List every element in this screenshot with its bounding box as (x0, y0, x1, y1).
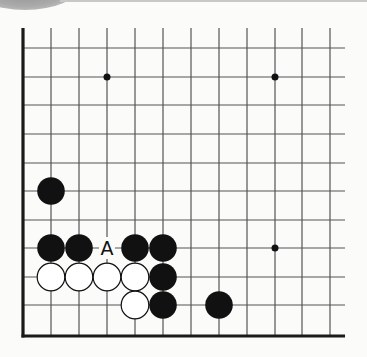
point-label: A (101, 237, 114, 259)
black-stone[interactable] (149, 234, 177, 262)
black-stone[interactable] (65, 234, 93, 262)
black-stone[interactable] (149, 263, 177, 291)
black-stone[interactable] (149, 291, 177, 319)
black-stone[interactable] (37, 177, 65, 205)
labels: A (99, 237, 115, 259)
black-stone[interactable] (121, 234, 149, 262)
grid-lines (23, 28, 345, 336)
black-stone[interactable] (37, 234, 65, 262)
star-point (272, 74, 279, 81)
white-stone[interactable] (93, 263, 121, 291)
board-edges (22, 28, 346, 338)
black-stone[interactable] (205, 291, 233, 319)
white-stone[interactable] (65, 263, 93, 291)
go-board: A (0, 0, 367, 357)
white-stone[interactable] (121, 263, 149, 291)
star-point (104, 74, 111, 81)
white-stone[interactable] (121, 291, 149, 319)
white-stone[interactable] (37, 263, 65, 291)
star-point (272, 245, 279, 252)
